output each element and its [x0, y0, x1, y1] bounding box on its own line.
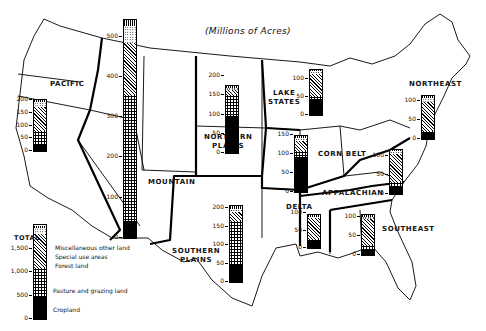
- axis-tick: [221, 94, 224, 95]
- bar-mountain: [123, 19, 137, 239]
- axis-tick: [417, 100, 420, 101]
- axis-tick: [29, 112, 32, 113]
- axis-tick-label: 50: [198, 259, 224, 266]
- axis-tick-label: 50: [2, 133, 28, 140]
- segment-pasture: [226, 95, 238, 115]
- segment-special: [124, 26, 136, 42]
- legend-heading: TOTAL: [14, 234, 40, 242]
- axis-tick: [290, 134, 293, 135]
- axis-tick: [119, 197, 122, 198]
- axis-tick-label: 50: [276, 226, 302, 233]
- segment-forest: [308, 218, 320, 238]
- axis-tick-label: 100: [198, 240, 224, 247]
- axis-tick-label: 150: [263, 130, 289, 137]
- axis-tick-label: 0: [92, 233, 118, 240]
- axis-tick-label: 0: [2, 146, 28, 153]
- region-label-southeast: SOUTHEAST: [382, 225, 435, 234]
- legend-item-crop: Cropland: [53, 306, 80, 313]
- legend-item-forest: Forest land: [55, 262, 88, 269]
- region-label-northeast: NORTHEAST: [409, 80, 462, 89]
- segment-pasture: [34, 131, 46, 145]
- axis-tick-label: 0: [278, 110, 304, 117]
- axis-tick-label: 100: [330, 212, 356, 219]
- segment-forest: [34, 107, 46, 130]
- axis-tick: [29, 137, 32, 138]
- axis-tick-label: 300: [92, 112, 118, 119]
- axis-tick: [385, 155, 388, 156]
- axis-tick-label: 0: [2, 314, 28, 321]
- axis-tick-label: 50: [390, 115, 416, 122]
- segment-crop: [124, 221, 136, 238]
- region-label-mountain: MOUNTAIN: [148, 178, 195, 187]
- axis-tick-label: 0: [358, 189, 384, 196]
- axis-tick: [290, 153, 293, 154]
- axis-tick: [29, 248, 32, 249]
- bar-lake-states: [309, 69, 323, 116]
- axis-tick: [303, 230, 306, 231]
- axis-tick: [29, 318, 32, 319]
- segment-crop: [295, 157, 307, 192]
- segment-crop: [34, 145, 46, 151]
- axis-tick-label: 150: [2, 108, 28, 115]
- axis-tick-label: 1,000: [2, 267, 28, 274]
- axis-tick: [119, 237, 122, 238]
- legend-item-misc: Miscellaneous other land: [55, 244, 130, 251]
- axis-tick: [29, 271, 32, 272]
- axis-tick: [29, 150, 32, 151]
- axis-tick-label: 0: [390, 134, 416, 141]
- segment-pasture: [124, 95, 136, 221]
- axis-tick: [119, 116, 122, 117]
- axis-tick-label: 500: [92, 32, 118, 39]
- segment-forest: [295, 141, 307, 151]
- axis-tick-label: 50: [278, 92, 304, 99]
- axis-tick: [29, 125, 32, 126]
- segment-crop: [34, 297, 46, 319]
- axis-tick-label: 200: [194, 71, 220, 78]
- bar-southern-plains: [229, 205, 243, 283]
- axis-tick-label: 500: [2, 291, 28, 298]
- axis-tick: [385, 193, 388, 194]
- axis-tick: [303, 247, 306, 248]
- axis-tick: [221, 152, 224, 153]
- axis-tick: [417, 138, 420, 139]
- axis-tick-label: 1,500: [2, 244, 28, 251]
- axis-tick: [385, 174, 388, 175]
- axis-tick-label: 100: [92, 193, 118, 200]
- axis-tick-label: 400: [92, 72, 118, 79]
- axis-tick: [357, 254, 360, 255]
- axis-tick-label: 50: [330, 231, 356, 238]
- label-line: NORTHEAST: [409, 80, 462, 88]
- label-line: SOUTHERN: [172, 247, 220, 255]
- axis-tick: [305, 78, 308, 79]
- axis-tick: [221, 75, 224, 76]
- segment-pasture: [34, 268, 46, 298]
- axis-tick-label: 100: [194, 110, 220, 117]
- segment-forest: [362, 219, 374, 245]
- axis-tick: [290, 172, 293, 173]
- axis-tick: [225, 281, 228, 282]
- segment-crop: [230, 265, 242, 282]
- bar-southeast: [361, 214, 375, 256]
- segment-crop: [362, 249, 374, 255]
- segment-pasture: [230, 221, 242, 265]
- axis-tick-label: 100: [276, 208, 302, 215]
- segment-forest: [422, 102, 434, 131]
- bar-northeast: [421, 95, 435, 140]
- axis-tick-label: 0: [330, 250, 356, 257]
- axis-tick-label: 0: [263, 187, 289, 194]
- axis-tick: [303, 212, 306, 213]
- axis-tick-label: 50: [358, 170, 384, 177]
- axis-tick-label: 100: [263, 149, 289, 156]
- axis-tick: [225, 263, 228, 264]
- label-line: SOUTHEAST: [382, 225, 435, 233]
- segment-forest: [390, 154, 402, 182]
- segment-crop: [390, 186, 402, 194]
- bar-corn-belt: [294, 135, 308, 193]
- axis-tick: [305, 96, 308, 97]
- segment-crop: [308, 241, 320, 248]
- axis-tick-label: 200: [198, 203, 224, 210]
- bar-pacific: [33, 99, 47, 152]
- segment-forest: [124, 43, 136, 95]
- label-line: STATES: [268, 98, 300, 106]
- legend-item-special: Special use areas: [55, 253, 108, 260]
